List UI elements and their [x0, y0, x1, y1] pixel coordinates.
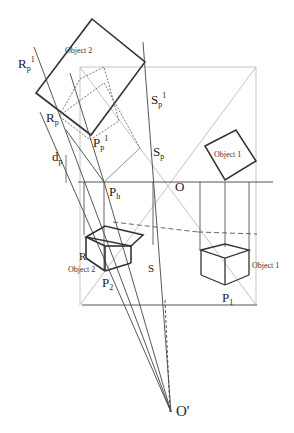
object2-dotted-rect [59, 67, 119, 140]
label-P1: P1 [222, 290, 233, 307]
label-object1-top: Object 1 [214, 150, 241, 159]
object1-box [201, 244, 249, 285]
labels: Object 2 Object 1 Object 2 Object 1 Rp1 … [18, 46, 279, 419]
label-dp: dp [52, 149, 63, 166]
label-Sp1: Sp1 [151, 91, 166, 109]
label-O: O [175, 179, 184, 194]
dashed-line-2 [198, 232, 257, 234]
label-R: R [79, 250, 87, 262]
label-object2-top: Object 2 [65, 46, 92, 55]
label-Ph: Ph [109, 184, 120, 201]
label-Oprime: O' [176, 403, 190, 419]
label-Sp: Sp [153, 144, 164, 161]
label-Rp: Rp [46, 110, 59, 127]
plan-frame [80, 67, 256, 305]
dotted-edge [104, 148, 140, 182]
label-Rp1: Rp1 [18, 55, 35, 73]
label-object2-bottom: Object 2 [68, 265, 95, 274]
label-object1-bottom: Object 1 [252, 261, 279, 270]
label-P2: P2 [102, 275, 113, 292]
label-S: S [148, 262, 154, 274]
perspective-diagram: Object 2 Object 1 Object 2 Object 1 Rp1 … [0, 0, 294, 433]
label-Pp1: Pp1 [93, 134, 108, 152]
